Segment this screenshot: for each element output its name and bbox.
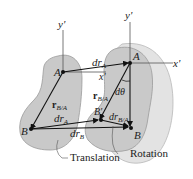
- B-prime-label: B': [94, 106, 103, 117]
- right-point-A: [128, 61, 132, 65]
- left-A-label: A: [53, 66, 61, 78]
- left-y-axis-label: y': [57, 18, 66, 30]
- right-B-label: B: [134, 129, 141, 141]
- right-point-B: [129, 126, 133, 130]
- left-point-B: [29, 127, 33, 131]
- drA-top-label: drA: [92, 56, 107, 70]
- mid-x-axis-label: x': [98, 71, 106, 82]
- drB-label: drB: [70, 127, 85, 141]
- right-x-axis-label: x': [172, 57, 181, 69]
- right-y-axis-label: y': [124, 9, 133, 21]
- point-B-prime: [99, 118, 103, 122]
- left-point-A: [61, 70, 65, 74]
- right-A-label: A: [132, 50, 140, 62]
- translation-caption: Translation: [70, 151, 120, 163]
- kinematics-diagram: y' y' x' x' drA rB/A drA drB rB/A drB/A …: [0, 0, 193, 179]
- dtheta-label: dθ: [115, 86, 125, 97]
- left-B-label: B: [21, 125, 28, 137]
- rotation-caption: Rotation: [130, 147, 168, 159]
